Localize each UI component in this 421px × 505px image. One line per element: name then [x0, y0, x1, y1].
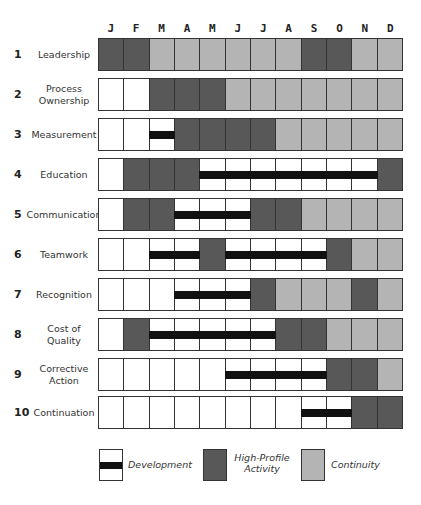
- schedule-row: 10Continuation: [0, 396, 421, 429]
- month-cell-d: [302, 359, 327, 390]
- month-cell-c: [150, 39, 175, 70]
- month-cell-h: [150, 199, 175, 230]
- row-label: Leadership: [30, 38, 98, 71]
- month-cell-w: [175, 359, 200, 390]
- month-cell-h: [99, 39, 124, 70]
- month-cell-h: [200, 79, 225, 110]
- month-cell-h: [251, 279, 276, 310]
- month-cell-c: [378, 119, 402, 150]
- month-cell-c: [378, 359, 402, 390]
- month-label: J: [251, 22, 276, 34]
- month-cell-d: [150, 119, 175, 150]
- month-cell-c: [226, 79, 251, 110]
- month-cell-w: [99, 199, 124, 230]
- month-cell-c: [327, 79, 352, 110]
- schedule-row: 8Cost of Quality: [0, 318, 421, 351]
- month-label: O: [327, 22, 352, 34]
- month-cell-d: [302, 397, 327, 428]
- month-cell-c: [327, 119, 352, 150]
- row-cells: [98, 318, 403, 351]
- month-cell-d: [175, 319, 200, 350]
- month-cell-d: [251, 239, 276, 270]
- schedule-row: 5Communication: [0, 198, 421, 231]
- schedule-row: 9Corrective Action: [0, 358, 421, 391]
- month-cell-d: [150, 239, 175, 270]
- month-cell-d: [251, 319, 276, 350]
- month-cell-w: [124, 79, 149, 110]
- legend: Development High-Profile Activity Contin…: [0, 449, 421, 489]
- month-cell-c: [276, 119, 301, 150]
- month-cell-d: [200, 199, 225, 230]
- month-cell-c: [352, 319, 377, 350]
- month-cell-d: [226, 239, 251, 270]
- row-label: Process Ownership: [30, 78, 98, 111]
- row-cells: [98, 358, 403, 391]
- month-label: N: [352, 22, 377, 34]
- month-cell-c: [327, 199, 352, 230]
- month-cell-w: [200, 359, 225, 390]
- month-cell-c: [378, 79, 402, 110]
- schedule-row: 2Process Ownership: [0, 78, 421, 111]
- row-cells: [98, 238, 403, 271]
- month-cell-w: [124, 359, 149, 390]
- month-cell-h: [175, 119, 200, 150]
- month-header: JFMAMJJASOND: [98, 22, 403, 34]
- month-cell-w: [99, 159, 124, 190]
- month-cell-h: [124, 39, 149, 70]
- month-cell-h: [124, 159, 149, 190]
- month-cell-c: [226, 39, 251, 70]
- month-cell-c: [352, 239, 377, 270]
- month-cell-c: [378, 279, 402, 310]
- month-cell-c: [378, 199, 402, 230]
- row-label: Cost of Quality: [30, 318, 98, 351]
- row-label: Continuation: [30, 396, 98, 429]
- month-cell-w: [99, 119, 124, 150]
- month-cell-w: [99, 239, 124, 270]
- month-cell-h: [378, 397, 402, 428]
- month-cell-c: [276, 279, 301, 310]
- month-cell-c: [175, 39, 200, 70]
- month-cell-h: [378, 159, 402, 190]
- month-cell-d: [226, 279, 251, 310]
- month-cell-c: [352, 79, 377, 110]
- month-cell-w: [124, 239, 149, 270]
- row-cells: [98, 198, 403, 231]
- schedule-row: 7Recognition: [0, 278, 421, 311]
- month-cell-h: [175, 79, 200, 110]
- month-cell-c: [302, 279, 327, 310]
- month-label: M: [200, 22, 225, 34]
- month-cell-d: [226, 159, 251, 190]
- month-cell-h: [150, 159, 175, 190]
- month-cell-h: [352, 279, 377, 310]
- month-cell-c: [200, 39, 225, 70]
- month-cell-w: [276, 397, 301, 428]
- month-cell-h: [200, 119, 225, 150]
- row-label: Recognition: [30, 278, 98, 311]
- month-cell-h: [276, 199, 301, 230]
- month-label: A: [174, 22, 199, 34]
- month-cell-w: [99, 279, 124, 310]
- month-cell-c: [276, 79, 301, 110]
- month-cell-d: [251, 359, 276, 390]
- month-cell-h: [124, 319, 149, 350]
- month-cell-h: [302, 39, 327, 70]
- month-cell-c: [251, 79, 276, 110]
- month-cell-h: [175, 159, 200, 190]
- month-cell-w: [150, 359, 175, 390]
- month-cell-c: [302, 79, 327, 110]
- month-cell-d: [200, 159, 225, 190]
- month-cell-w: [200, 397, 225, 428]
- month-cell-w: [124, 279, 149, 310]
- month-cell-c: [327, 319, 352, 350]
- month-cell-w: [99, 319, 124, 350]
- month-label: M: [149, 22, 174, 34]
- month-cell-d: [251, 159, 276, 190]
- row-label: Measurement: [30, 118, 98, 151]
- month-cell-h: [352, 359, 377, 390]
- month-cell-d: [276, 239, 301, 270]
- row-cells: [98, 118, 403, 151]
- month-cell-h: [276, 319, 301, 350]
- legend-continuity-label: Continuity: [331, 459, 380, 470]
- month-cell-w: [150, 397, 175, 428]
- month-cell-c: [352, 39, 377, 70]
